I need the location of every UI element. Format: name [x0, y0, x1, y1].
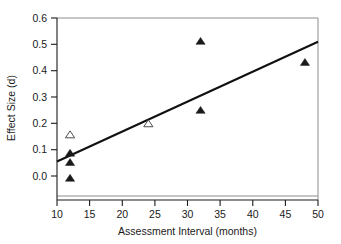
plot-frame: [57, 18, 318, 200]
x-tick-label-45: 45: [280, 208, 292, 220]
x-tick-label-50: 50: [312, 208, 324, 220]
y-tick-label-0.6: 0.6: [32, 12, 47, 24]
data-point-markers: [65, 37, 309, 181]
data-point-filled-triangle: [196, 37, 205, 44]
data-point-filled-triangle: [65, 174, 74, 181]
x-tick-label-15: 15: [84, 208, 96, 220]
x-tick-label-10: 10: [51, 208, 63, 220]
data-point-filled-triangle: [196, 106, 205, 113]
data-point-open-triangle: [65, 131, 74, 138]
y-tick-label-0.2: 0.2: [32, 117, 47, 129]
y-tick-label-0.0: 0.0: [32, 170, 47, 182]
x-tick-label-25: 25: [149, 208, 161, 220]
regression-line: [57, 42, 318, 162]
y-axis-ticks: 0.6 0.5 0.4 0.3 0.2 0.1 0.0: [32, 12, 57, 182]
data-point-filled-triangle: [300, 58, 309, 65]
x-tick-label-30: 30: [182, 208, 194, 220]
x-axis-ticks: 10 15 20 25 30 35 40 45 50: [51, 200, 324, 220]
y-tick-label-0.4: 0.4: [32, 64, 47, 76]
data-point-filled-triangle: [65, 159, 74, 166]
y-tick-label-0.5: 0.5: [32, 38, 47, 50]
x-axis-title: Assessment Interval (months): [118, 225, 257, 237]
y-axis-title: Effect Size (d): [5, 75, 17, 141]
chart-figure: 0.6 0.5 0.4 0.3 0.2 0.1 0.0 10 15 20 25: [0, 0, 341, 244]
data-point-filled-triangle: [65, 149, 74, 156]
x-tick-label-20: 20: [116, 208, 128, 220]
x-tick-label-40: 40: [247, 208, 259, 220]
x-tick-label-35: 35: [214, 208, 226, 220]
scatter-plot: 0.6 0.5 0.4 0.3 0.2 0.1 0.0 10 15 20 25: [0, 0, 341, 244]
y-tick-label-0.1: 0.1: [32, 143, 47, 155]
y-tick-label-0.3: 0.3: [32, 91, 47, 103]
